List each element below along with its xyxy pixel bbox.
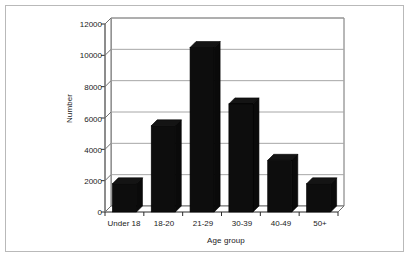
- bar-front-face: [112, 184, 136, 212]
- bar-column[interactable]: [151, 120, 181, 212]
- bar-front-face: [229, 104, 253, 212]
- bar-column[interactable]: [307, 178, 337, 212]
- bar-front-face: [151, 126, 175, 212]
- bar-side-face: [136, 178, 142, 212]
- bar-column[interactable]: [112, 178, 142, 212]
- bar-front-face: [190, 48, 214, 213]
- bar-front-face: [307, 184, 331, 212]
- bar-column[interactable]: [190, 42, 220, 213]
- chart-figure: 12000 10000 8000 6000 4000 2000 0 Number…: [0, 0, 411, 258]
- bar-side-face: [175, 120, 181, 212]
- bar-side-face: [331, 178, 337, 212]
- bar-column[interactable]: [229, 98, 259, 212]
- bar-side-face: [214, 42, 220, 213]
- bar-front-face: [268, 160, 292, 212]
- bar-side-face: [292, 154, 298, 212]
- bar-side-face: [253, 98, 259, 212]
- bar-column[interactable]: [268, 154, 298, 212]
- plot-area: [0, 0, 411, 258]
